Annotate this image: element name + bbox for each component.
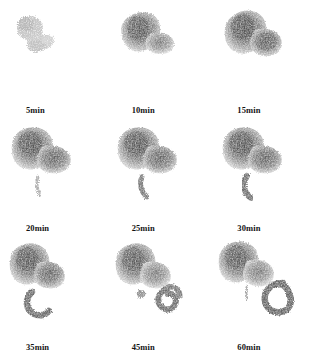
scan-cell-25min: 25min	[106, 119, 212, 238]
scan-image-35min	[0, 237, 106, 321]
scan-image-15min	[211, 0, 317, 84]
scan-image-20min	[0, 119, 106, 203]
scan-cell-15min: 15min	[211, 0, 317, 119]
scan-label-30min: 30min	[211, 223, 317, 233]
scan-image-30min	[211, 119, 317, 203]
scan-cell-35min: 35min	[0, 237, 106, 356]
scan-label-25min: 25min	[106, 223, 212, 233]
scan-grid: 5min 10min	[0, 0, 317, 356]
scan-cell-5min: 5min	[0, 0, 106, 119]
scan-image-45min	[106, 237, 212, 321]
scan-image-25min	[106, 119, 212, 203]
scan-label-10min: 10min	[106, 105, 212, 115]
scan-label-20min: 20min	[0, 223, 106, 233]
scan-cell-20min: 20min	[0, 119, 106, 238]
scan-label-45min: 45min	[106, 342, 212, 352]
scan-cell-10min: 10min	[106, 0, 212, 119]
scan-cell-60min: 60min	[211, 237, 317, 356]
scan-label-35min: 35min	[0, 342, 106, 352]
scan-image-60min	[211, 237, 317, 321]
scan-label-15min: 15min	[211, 105, 317, 115]
scan-image-5min	[0, 0, 106, 84]
scintigraphy-figure: 5min 10min	[0, 0, 317, 362]
scan-image-10min	[106, 0, 212, 84]
scan-cell-45min: 45min	[106, 237, 212, 356]
scan-label-5min: 5min	[0, 105, 106, 115]
scan-label-60min: 60min	[211, 342, 317, 352]
scan-cell-30min: 30min	[211, 119, 317, 238]
